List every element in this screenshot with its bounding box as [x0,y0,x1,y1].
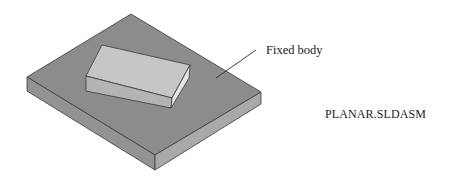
assembly-file-name: PLANAR.SLDASM [325,108,426,120]
isometric-assembly-drawing [0,0,451,182]
callout-leader-line [216,50,256,78]
diagram-canvas: Fixed body PLANAR.SLDASM [0,0,451,182]
fixed-body-callout: Fixed body [266,44,323,57]
